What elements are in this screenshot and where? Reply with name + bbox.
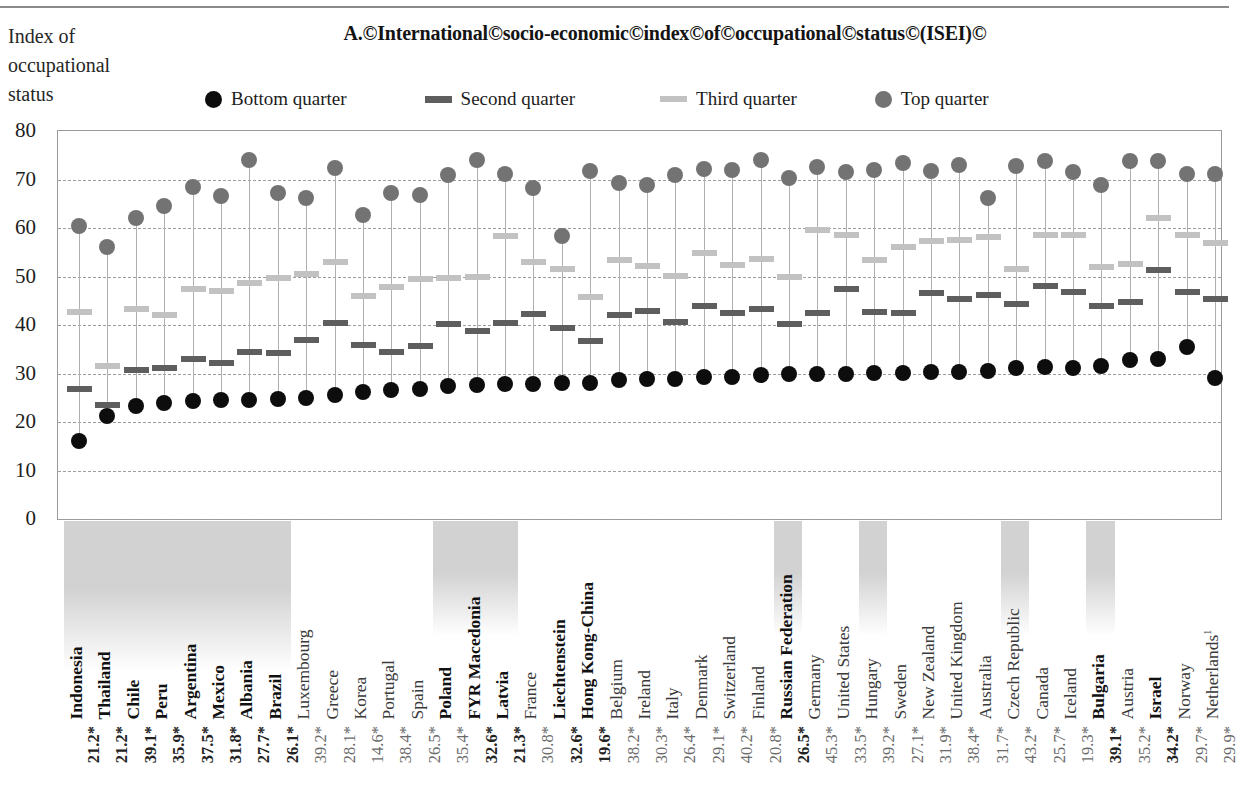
- x-axis-label-italy: Italy: [664, 687, 682, 719]
- data-point-third-quarter: [237, 280, 262, 286]
- stem-line: [391, 193, 392, 390]
- y-axis-tick-60: 60: [0, 228, 36, 253]
- data-point-top-quarter: [525, 180, 541, 196]
- data-point-third-quarter: [1203, 240, 1228, 246]
- x-axis-label-argentina: Argentina: [181, 643, 199, 719]
- data-point-second-quarter: [436, 321, 461, 327]
- legend-item-third-quarter: Third quarter: [660, 88, 797, 110]
- stem-line: [1073, 172, 1074, 367]
- data-point-bottom-quarter: [866, 365, 882, 381]
- x-axis-label-new-zealand: New Zealand: [920, 625, 938, 719]
- data-point-top-quarter: [1150, 153, 1166, 169]
- bottom-value-label: 38.4*: [964, 726, 984, 763]
- data-point-bottom-quarter: [525, 376, 541, 392]
- x-axis-category-labels: IndonesiaThailandChilePeruArgentinaMexic…: [57, 521, 1222, 719]
- x-axis-label-australia: Australia: [976, 655, 994, 719]
- data-point-bottom-quarter: [383, 382, 399, 398]
- x-axis-label-greece: Greece: [323, 669, 341, 719]
- stem-line: [221, 196, 222, 400]
- stem-line: [704, 169, 705, 377]
- data-point-bottom-quarter: [1179, 339, 1195, 355]
- data-point-top-quarter: [298, 190, 314, 206]
- data-point-top-quarter: [582, 163, 598, 179]
- data-point-bottom-quarter: [469, 377, 485, 393]
- x-axis-label-albania: Albania: [238, 660, 256, 719]
- stem-line: [164, 206, 165, 402]
- plot-area: 01020304050607080: [57, 130, 1222, 520]
- x-axis-label-israel: Israel: [1147, 676, 1165, 719]
- data-point-third-quarter: [862, 257, 887, 263]
- bottom-value-label: 26.5*: [425, 726, 445, 763]
- bottom-value-label: 27.1*: [908, 726, 928, 763]
- data-point-second-quarter: [124, 367, 149, 373]
- legend-marker-dash-icon: [660, 96, 687, 102]
- data-point-third-quarter: [294, 271, 319, 277]
- data-point-bottom-quarter: [753, 367, 769, 383]
- data-point-third-quarter: [493, 233, 518, 239]
- bottom-value-label: 26.5*: [794, 726, 814, 763]
- bottom-value-label: 29.7*: [1192, 726, 1212, 763]
- data-point-top-quarter: [866, 162, 882, 178]
- x-axis-label-liechtenstein: Liechtenstein: [550, 619, 568, 719]
- data-point-third-quarter: [550, 266, 575, 272]
- data-point-top-quarter: [838, 164, 854, 180]
- data-point-top-quarter: [469, 152, 485, 168]
- x-axis-label-netherlands: Netherlands1: [1203, 629, 1221, 719]
- data-point-bottom-quarter: [923, 364, 939, 380]
- bottom-value-label: 26.1*: [283, 726, 303, 763]
- data-point-second-quarter: [607, 312, 632, 318]
- x-axis-label-denmark: Denmark: [692, 654, 710, 719]
- data-point-third-quarter: [578, 294, 603, 300]
- data-point-second-quarter: [862, 309, 887, 315]
- x-axis-label-ireland: Ireland: [636, 669, 654, 719]
- top-divider-rule: [0, 6, 1229, 8]
- data-point-bottom-quarter: [895, 365, 911, 381]
- data-point-third-quarter: [323, 259, 348, 265]
- data-point-second-quarter: [1118, 299, 1143, 305]
- data-point-top-quarter: [923, 163, 939, 179]
- bottom-value-label: 32.6*: [567, 726, 587, 763]
- data-point-top-quarter: [355, 207, 371, 223]
- data-point-second-quarter: [95, 402, 120, 408]
- data-point-top-quarter: [809, 159, 825, 175]
- x-axis-label-korea: Korea: [352, 676, 370, 719]
- data-point-third-quarter: [749, 256, 774, 262]
- data-point-third-quarter: [1004, 266, 1029, 272]
- data-point-top-quarter: [99, 239, 115, 255]
- data-point-third-quarter: [67, 309, 92, 315]
- data-point-third-quarter: [919, 238, 944, 244]
- data-point-third-quarter: [465, 274, 490, 280]
- stem-line: [335, 168, 336, 395]
- bottom-value-label: 33.5*: [851, 726, 871, 763]
- data-point-bottom-quarter: [298, 390, 314, 406]
- data-point-third-quarter: [607, 257, 632, 263]
- category-highlight-band: [859, 521, 887, 636]
- data-point-second-quarter: [1175, 289, 1200, 295]
- data-point-top-quarter: [895, 155, 911, 171]
- data-point-bottom-quarter: [951, 364, 967, 380]
- data-point-bottom-quarter: [1150, 351, 1166, 367]
- data-point-second-quarter: [1089, 303, 1114, 309]
- data-point-bottom-quarter: [1093, 358, 1109, 374]
- x-axis-label-czech-republic: Czech Republic: [1005, 608, 1023, 719]
- data-point-third-quarter: [209, 288, 234, 294]
- category-highlight-band: [1086, 521, 1114, 636]
- data-point-second-quarter: [521, 311, 546, 317]
- x-axis-label-finland: Finland: [749, 666, 767, 719]
- gridline-80: [58, 131, 1221, 132]
- bottom-value-label: 29.9*: [1220, 726, 1240, 763]
- y-axis-tick-0: 0: [0, 519, 36, 544]
- legend-label: Third quarter: [696, 88, 797, 110]
- x-axis-label-belgium: Belgium: [607, 659, 625, 719]
- data-point-top-quarter: [753, 152, 769, 168]
- data-point-bottom-quarter: [412, 381, 428, 397]
- data-point-bottom-quarter: [639, 371, 655, 387]
- stem-line: [1187, 174, 1188, 347]
- data-point-bottom-quarter: [128, 398, 144, 414]
- stem-line: [193, 187, 194, 401]
- gridline-50: [58, 277, 1221, 278]
- bottom-value-label: 32.6*: [482, 726, 502, 763]
- data-point-third-quarter: [1089, 264, 1114, 270]
- gridline-0: [58, 519, 1221, 520]
- data-point-third-quarter: [777, 274, 802, 280]
